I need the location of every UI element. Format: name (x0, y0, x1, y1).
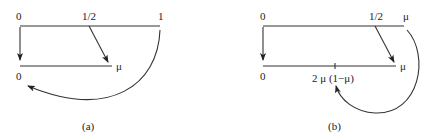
label-bottom-right: μ (400, 60, 406, 72)
label-bottom-left: 0 (16, 70, 22, 82)
caption-b: (b) (328, 120, 341, 133)
label-top-left: 0 (260, 10, 266, 22)
diagram-a: 0 1/2 1 0 μ (a) (16, 10, 164, 133)
arrow-diagonal-icon (89, 26, 108, 62)
label-top-right: μ (403, 10, 409, 22)
label-bottom-tick: 2 μ (1−μ) (312, 72, 354, 85)
caption-a: (a) (82, 120, 95, 133)
label-top-right: 1 (158, 10, 164, 22)
arrow-diagonal-icon (375, 26, 394, 62)
label-top-mid: 1/2 (82, 10, 96, 22)
label-top-left: 0 (16, 10, 22, 22)
label-bottom-right: μ (116, 60, 122, 72)
label-top-mid: 1/2 (369, 10, 383, 22)
label-bottom-left: 0 (260, 70, 266, 82)
arrow-curved-icon (28, 30, 160, 99)
diagram-b: 0 1/2 μ 0 2 μ (1−μ) μ (b) (260, 10, 419, 133)
diagram-canvas: 0 1/2 1 0 μ (a) 0 1/2 μ 0 2 μ (1−μ) μ (b… (0, 0, 436, 139)
